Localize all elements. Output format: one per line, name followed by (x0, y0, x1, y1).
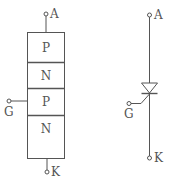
layer-label-2: N (41, 69, 52, 83)
cathode-terminal-left (45, 170, 49, 174)
cathode-label-left: K (51, 165, 61, 176)
layer-label-1: P (42, 41, 50, 55)
thyristor-symbol (127, 13, 158, 160)
cathode-terminal-right (148, 156, 152, 160)
gate-terminal-left (7, 99, 11, 103)
gate-lead-right (131, 94, 150, 104)
anode-label-left: A (49, 7, 59, 21)
anode-terminal-left (44, 12, 48, 16)
gate-label-right: G (124, 107, 134, 121)
pnpn-structure (7, 12, 65, 174)
anode-terminal-right (148, 13, 152, 17)
layer-label-3: P (42, 95, 50, 109)
cathode-label-right: K (154, 151, 164, 165)
gate-label-left: G (4, 105, 14, 119)
diode-triangle (142, 83, 158, 93)
gate-terminal-right (127, 102, 131, 106)
layer-label-4: N (41, 122, 52, 136)
anode-label-right: A (153, 8, 163, 22)
diagram-canvas: A P N P N G K A G K (0, 0, 172, 176)
